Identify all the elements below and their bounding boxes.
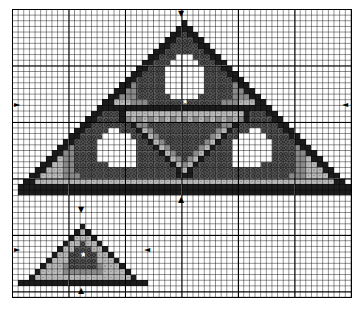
large-motif-bottom-arrow-icon: ▲ [177,196,185,204]
cross-stitch-chart: ★★ [12,9,351,297]
small-motif-bottom-arrow-icon: ▲ [77,287,85,295]
stitch-black [345,190,351,196]
large-motif-left-arrow-icon: ► [13,101,21,109]
stitch-black [142,280,148,286]
small-motif-right-arrow-icon: ◄ [143,246,151,254]
large-motif-top-arrow-icon: ▼ [177,10,185,18]
small-motif-top-arrow-icon: ▼ [77,206,85,214]
large-motif-right-arrow-icon: ◄ [341,101,349,109]
small-motif-left-arrow-icon: ► [13,246,21,254]
